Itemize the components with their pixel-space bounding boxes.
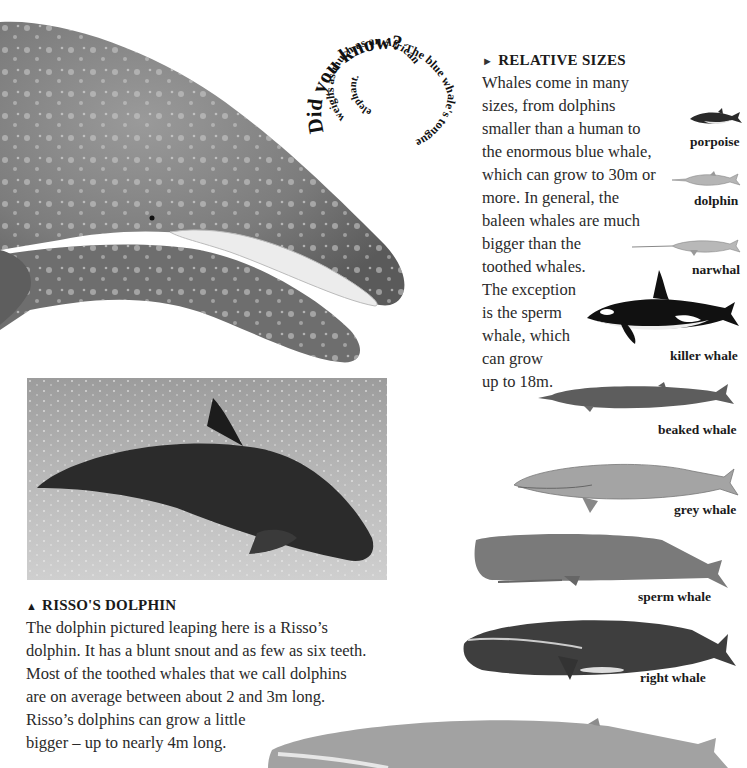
species-label-porpoise: porpoise — [690, 134, 740, 150]
relative-sizes-text-line: toothed whales. — [482, 255, 586, 278]
species-label-beaked-whale: beaked whale — [658, 422, 736, 438]
risso-text-line: Risso’s dolphins can grow a little — [26, 708, 246, 731]
triangle-up-icon: ▲ — [26, 600, 37, 612]
species-label-dolphin: dolphin — [694, 193, 738, 209]
relative-sizes-text-line: more. In general, the — [482, 186, 619, 209]
svg-text:elephant.: elephant. — [347, 72, 373, 118]
species-label-right-whale: right whale — [640, 670, 706, 686]
did-you-know-spiral: Did you know? The blue whale's tongue we… — [300, 0, 480, 150]
species-label-killer-whale: killer whale — [670, 348, 738, 364]
species-label-sperm-whale: sperm whale — [638, 589, 711, 605]
risso-text-line: dolphin. It has a blunt snout and as few… — [26, 639, 366, 662]
risso-text-line: are on average between about 2 and 3m lo… — [26, 685, 325, 708]
sperm-whale-illustration — [472, 530, 734, 592]
relative-sizes-text-line: baleen whales are much — [482, 209, 640, 232]
risso-text-line: bigger – up to nearly 4m long. — [26, 731, 226, 754]
risso-text-line: Most of the toothed whales that we call … — [26, 662, 347, 685]
beaked-whale-illustration — [538, 380, 738, 414]
relative-sizes-text-line: sizes, from dolphins — [482, 94, 615, 117]
relative-sizes-text-line: The exception — [482, 278, 576, 301]
relative-sizes-text-line: smaller than a human to — [482, 117, 641, 140]
blue-whale-illustration — [268, 700, 747, 768]
relative-sizes-heading: ►RELATIVE SIZES — [482, 52, 626, 69]
relative-sizes-text-line: bigger than the — [482, 232, 581, 255]
relative-sizes-text-line: can grow — [482, 347, 543, 370]
relative-sizes-text-line: whale, which — [482, 324, 570, 347]
killer-whale-illustration — [585, 268, 740, 348]
narwhal-illustration — [632, 236, 742, 258]
porpoise-illustration — [688, 108, 744, 128]
species-label-grey-whale: grey whale — [674, 502, 736, 518]
triangle-right-icon: ► — [482, 55, 493, 67]
relative-sizes-text-line: the enormous blue whale, — [482, 140, 652, 163]
relative-sizes-text-line: is the sperm — [482, 301, 562, 324]
rissos-dolphin-heading: ▲RISSO'S DOLPHIN — [26, 597, 176, 614]
dolphin-illustration — [672, 170, 742, 190]
relative-sizes-text-line: Whales come in many — [482, 71, 629, 94]
rissos-dolphin-photo — [27, 378, 387, 580]
relative-sizes-text-line: which can grow to 30m or — [482, 163, 656, 186]
risso-text-line: The dolphin pictured leaping here is a R… — [26, 616, 328, 639]
